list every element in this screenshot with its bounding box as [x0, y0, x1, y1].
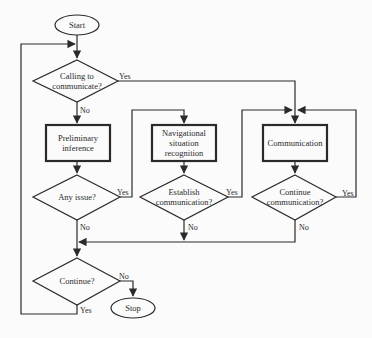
continuecomm-label-2: communication? — [267, 197, 324, 207]
communication-label: Communication — [268, 138, 324, 148]
establish-label-2: communication? — [156, 197, 213, 207]
stop-label: Stop — [125, 303, 141, 313]
navigational-label-3: recognition — [165, 148, 204, 158]
continue-no-label: No — [119, 272, 129, 281]
establish-no-label: No — [188, 223, 198, 232]
calling-no-label: No — [80, 106, 90, 115]
continuecomm-yes-label: Yes — [342, 189, 354, 198]
anyissue-label: Any issue? — [58, 192, 96, 202]
establish-label-1: Establish — [168, 187, 200, 197]
continuecomm-no-label: No — [299, 223, 309, 232]
calling-yes-label: Yes — [119, 72, 131, 81]
continuecomm-label-1: Continue — [279, 187, 310, 197]
preliminary-label-2: inference — [62, 143, 94, 153]
continue-yes-label: Yes — [80, 306, 92, 315]
calling-label-1: Calling to — [60, 71, 94, 81]
navigational-label-1: Navigational — [162, 128, 207, 138]
flowchart-canvas: Start Calling to communicate? Preliminar… — [0, 0, 372, 338]
preliminary-label-1: Preliminary — [58, 133, 99, 143]
start-label: Start — [69, 20, 86, 30]
establish-yes-label: Yes — [226, 188, 238, 197]
navigational-label-2: situation — [169, 138, 199, 148]
anyissue-yes-label: Yes — [117, 188, 129, 197]
continue-label: Continue? — [60, 276, 95, 286]
anyissue-no-label: No — [80, 223, 90, 232]
edge-continuecomm-no — [79, 220, 295, 242]
edge-continue-no — [120, 281, 133, 296]
calling-label-2: communicate? — [52, 81, 102, 91]
edge-calling-yes — [118, 81, 295, 123]
